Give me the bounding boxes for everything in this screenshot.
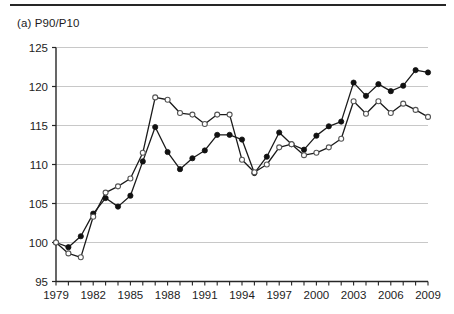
data-point-open-marker-series-1988: [165, 97, 170, 102]
y-axis-label-125: 125: [29, 42, 48, 54]
data-point-open-marker-series-1997: [277, 145, 282, 150]
data-point-solid-marker-series-1994: [239, 137, 244, 142]
x-axis-label-1991: 1991: [192, 289, 218, 301]
data-point-open-marker-series-1998: [289, 142, 294, 147]
data-point-open-marker-series-1987: [153, 95, 158, 100]
chart-canvas: 95100105110115120125 1979198219851988199…: [0, 0, 454, 314]
y-axis-labels: 95100105110115120125: [29, 42, 48, 288]
data-point-solid-marker-series-2009: [425, 70, 430, 75]
data-point-open-marker-series-1984: [116, 184, 121, 189]
data-point-open-marker-series-1994: [240, 157, 245, 162]
y-axis-label-115: 115: [30, 120, 48, 132]
data-point-open-marker-series-1979: [54, 240, 59, 245]
data-point-open-marker-series-1983: [103, 190, 108, 195]
data-point-open-marker-series-1985: [128, 176, 133, 181]
data-point-open-marker-series-1980: [66, 251, 71, 256]
x-axis-label-1994: 1994: [229, 289, 255, 301]
x-axis-label-2003: 2003: [341, 289, 367, 301]
data-point-solid-marker-series-2005: [376, 82, 381, 87]
data-point-open-marker-series-1992: [215, 112, 220, 117]
y-axis-label-120: 120: [29, 81, 48, 93]
data-point-solid-marker-series-1993: [227, 132, 232, 137]
data-point-open-marker-series-2008: [413, 107, 418, 112]
y-axis-label-105: 105: [29, 198, 48, 210]
x-axis-label-1997: 1997: [266, 289, 292, 301]
x-axis-label-2009: 2009: [415, 289, 441, 301]
data-point-solid-marker-series-1983: [103, 195, 108, 200]
data-point-solid-marker-series-2000: [314, 133, 319, 138]
data-point-open-marker-series-1996: [264, 162, 269, 167]
data-point-open-marker-series-2000: [314, 150, 319, 155]
data-point-open-marker-series-1999: [302, 153, 307, 158]
series-marker-group: [53, 68, 430, 260]
data-point-open-marker-series-1990: [190, 112, 195, 117]
x-axis-label-2000: 2000: [304, 289, 330, 301]
data-point-open-marker-series-1982: [91, 214, 96, 219]
data-point-open-marker-series-1989: [178, 111, 183, 116]
data-point-solid-marker-series-2004: [363, 93, 368, 98]
data-point-solid-marker-series-2008: [413, 68, 418, 73]
data-point-open-marker-series-2009: [426, 114, 431, 119]
data-point-solid-marker-series-1990: [190, 156, 195, 161]
data-point-solid-marker-series-1988: [165, 149, 170, 154]
data-point-open-marker-series-1993: [227, 112, 232, 117]
data-point-open-marker-series-1986: [140, 150, 145, 155]
data-point-solid-marker-series-1987: [153, 124, 158, 129]
data-point-open-marker-series-1995: [252, 170, 257, 175]
y-axis-label-110: 110: [30, 159, 48, 171]
data-point-solid-marker-series-1984: [115, 204, 120, 209]
data-point-open-marker-series-2001: [326, 145, 331, 150]
data-point-solid-marker-series-1986: [140, 159, 145, 164]
data-point-solid-marker-series-1996: [264, 154, 269, 159]
data-point-solid-marker-series-1992: [215, 132, 220, 137]
data-point-open-marker-series-1981: [78, 255, 83, 260]
x-axis-label-1979: 1979: [43, 289, 69, 301]
x-axis-label-1985: 1985: [118, 289, 144, 301]
data-point-solid-marker-series-2003: [351, 80, 356, 85]
data-point-solid-marker-series-1991: [202, 148, 207, 153]
x-axis-label-1988: 1988: [155, 289, 181, 301]
data-point-open-marker-series-2004: [364, 111, 369, 116]
series-line-group: [56, 70, 428, 257]
figure-root: (a) P90/P10 95100105110115120125 1979198…: [0, 0, 454, 314]
data-point-solid-marker-series-2006: [388, 89, 393, 94]
data-point-open-marker-series-2007: [401, 101, 406, 106]
data-point-solid-marker-series-1999: [301, 147, 306, 152]
y-axis-label-100: 100: [29, 237, 48, 249]
data-point-open-marker-series-2002: [339, 136, 344, 141]
x-axis-label-2006: 2006: [378, 289, 404, 301]
x-axis-label-1982: 1982: [80, 289, 106, 301]
x-axis-labels: 1979198219851988199119941997200020032006…: [43, 289, 441, 301]
data-point-solid-marker-series-2002: [339, 119, 344, 124]
data-point-open-marker-series-1991: [202, 121, 207, 126]
data-point-open-marker-series-2006: [388, 111, 393, 116]
series-line-open-marker-series: [56, 97, 428, 257]
data-point-solid-marker-series-1985: [128, 193, 133, 198]
data-point-open-marker-series-2003: [351, 99, 356, 104]
data-point-open-marker-series-2005: [376, 99, 381, 104]
gridline-group: [56, 48, 428, 243]
data-point-solid-marker-series-1980: [66, 245, 71, 250]
data-point-solid-marker-series-2007: [401, 83, 406, 88]
data-point-solid-marker-series-1981: [78, 234, 83, 239]
data-point-solid-marker-series-1989: [177, 167, 182, 172]
data-point-solid-marker-series-2001: [326, 124, 331, 129]
y-axis-label-95: 95: [35, 276, 48, 288]
data-point-solid-marker-series-1997: [277, 130, 282, 135]
